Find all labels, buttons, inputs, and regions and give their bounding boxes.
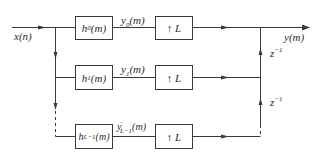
upsampler-box-0: ↑ L	[155, 16, 193, 40]
up-arrow-icon	[259, 98, 263, 105]
up-arrow-icon	[259, 48, 263, 55]
filter-bank-diagram: x(n) y(m) h0(m) y0(m) ↑ L h1(m) y1(m) ↑ …	[0, 0, 317, 158]
upsampler-box-1: ↑ L	[155, 65, 193, 90]
output-label: y(m)	[284, 32, 304, 43]
signal-y0-label: y0(m)	[121, 15, 145, 29]
filter-hL-1-box: hL−1(m)	[75, 124, 113, 149]
filter-h0-box: h0(m)	[75, 16, 113, 40]
input-arrow-icon	[38, 26, 46, 30]
down-arrow-icon	[54, 103, 58, 110]
right-arrow-icon	[221, 26, 229, 30]
filter-h1-box: h1(m)	[75, 65, 113, 90]
down-arrow-icon	[54, 52, 58, 59]
right-arrow-icon	[221, 135, 229, 139]
input-label: x(n)	[14, 31, 32, 42]
signal-y1-label: y1(m)	[121, 64, 145, 78]
delay-label-1: z−1	[270, 47, 283, 59]
delay-label-2: z−1	[270, 96, 283, 108]
right-arrow-icon	[221, 76, 229, 80]
upsampler-box-2: ↑ L	[155, 124, 193, 149]
signal-yL-1-label: y′L−1(m)	[117, 121, 146, 135]
